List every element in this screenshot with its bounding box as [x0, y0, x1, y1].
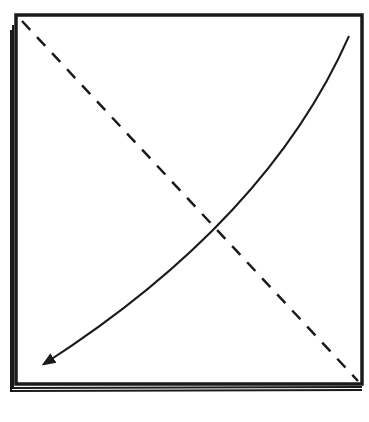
- dashed-diagonal-line: [22, 21, 358, 381]
- diagram-canvas: [0, 0, 369, 422]
- stacked-frame: [11, 25, 362, 391]
- curved-arrow: [44, 36, 349, 364]
